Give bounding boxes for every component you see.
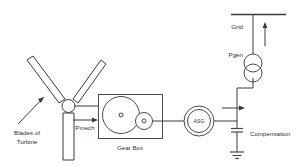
gear-box-label: Gear Box: [117, 144, 144, 151]
turbine-rotor: [27, 56, 106, 160]
compensation-capacitor: [230, 121, 244, 159]
turbine-blade-lower: [63, 113, 74, 160]
gear-box: [99, 95, 163, 139]
pgen-arrowhead: [239, 106, 245, 111]
blades-of-turbine-label-line1: Blades of: [14, 129, 40, 136]
step-up-transformer: [244, 54, 262, 82]
pgen-flow-arrow-vertical: [263, 22, 268, 46]
pmech-arrowhead: [92, 118, 98, 123]
pmech-flow-arrow: [73, 118, 98, 123]
compensation-label: Compensation: [250, 130, 290, 137]
transformer-coil-upper: [244, 54, 262, 72]
grid-arrowhead: [263, 22, 268, 28]
wind-power-system-diagram: Blades of Turbine Pmech Gear Box ASG: [0, 0, 304, 166]
blades-of-turbine-label-line2: Turbine: [17, 138, 38, 145]
pmech-label: Pmech: [75, 124, 95, 131]
gear-wheel-small-hub: [142, 119, 146, 123]
turbine-blade-upper-right: [73, 60, 106, 103]
turbine-hub: [62, 100, 75, 113]
grid-label: Grid: [231, 23, 243, 30]
gear-wheel-large-hub: [119, 113, 123, 117]
generator-label: ASG: [194, 118, 205, 124]
pgen-label: Pgen: [229, 51, 244, 58]
pgen-flow-arrow-horizontal: [222, 106, 245, 111]
diagram-canvas: Blades of Turbine Pmech Gear Box ASG: [0, 0, 304, 166]
blades-callout: [18, 97, 44, 124]
turbine-blade-upper-left: [27, 56, 65, 103]
